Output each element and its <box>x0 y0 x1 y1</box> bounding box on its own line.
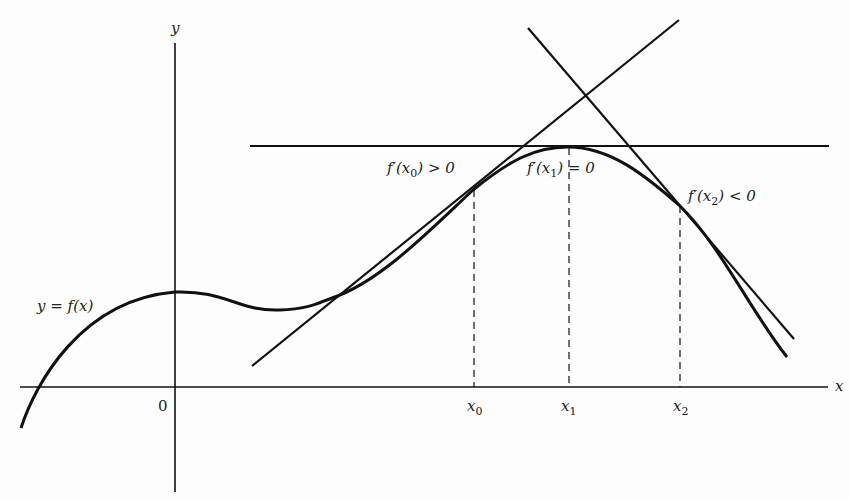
derivative-tangent-diagram: y x 0 y = f(x) x0 x1 x2 f′(x0) > 0 f′(x1… <box>0 0 849 501</box>
diagram-svg: y x 0 y = f(x) x0 x1 x2 f′(x0) > 0 f′(x1… <box>0 0 849 501</box>
curve-label: y = f(x) <box>36 297 93 315</box>
x0-label: x0 <box>467 397 482 418</box>
derivative-label-x1: f′(x1) = 0 <box>526 159 595 180</box>
derivative-label-x0: f′(x0) > 0 <box>386 159 455 180</box>
derivative-label-x2: f′(x2) < 0 <box>687 187 756 208</box>
tangent-line-x0 <box>252 20 679 366</box>
x-axis-label: x <box>835 377 844 395</box>
tangent-line-x2 <box>528 28 794 339</box>
y-axis-label: y <box>170 19 180 37</box>
function-curve <box>21 147 787 428</box>
x2-label: x2 <box>673 397 688 418</box>
origin-label: 0 <box>158 397 168 415</box>
x1-label: x1 <box>561 397 576 418</box>
